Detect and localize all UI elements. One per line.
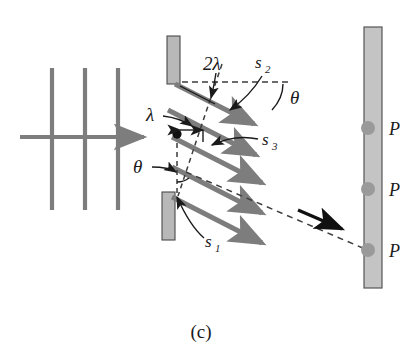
- label-s2: s: [255, 53, 262, 72]
- screen-dot-bottom: [361, 243, 375, 257]
- label-s3: s: [262, 130, 269, 149]
- label-s1-subscript: 1: [215, 242, 220, 254]
- construction-dashed-lines: [177, 64, 372, 252]
- diffraction-grating-figure: 2λ s 2 θ λ s 3 θ s 1 P P P (c): [0, 0, 402, 360]
- two-lambda-segment: [180, 86, 215, 104]
- label-s2-group: s 2: [255, 53, 271, 75]
- label-theta-top: θ: [290, 87, 299, 108]
- label-lambda: λ: [145, 104, 154, 125]
- label-s3-subscript: 3: [271, 140, 278, 152]
- label-screen-point-middle: P: [388, 180, 400, 200]
- screen-dot-top: [361, 121, 375, 135]
- figure-caption: (c): [190, 321, 211, 343]
- beam-to-screen-arrow: [298, 210, 342, 229]
- theta-left-arc: [177, 178, 189, 182]
- label-screen-point-top: P: [388, 119, 400, 139]
- figure-canvas: 2λ s 2 θ λ s 3 θ s 1 P P P (c): [0, 0, 402, 360]
- label-two-lambda: 2λ: [203, 53, 221, 74]
- label-s1-group: s 1: [205, 232, 220, 254]
- screen-dot-middle: [361, 182, 375, 196]
- resultant-beam-arrow: [298, 210, 342, 229]
- label-s1: s: [205, 232, 212, 251]
- diffracted-ray-bundle: [168, 84, 262, 243]
- detection-screen: [361, 27, 382, 288]
- label-theta-left: θ: [133, 156, 142, 177]
- source-point-dot: [172, 129, 181, 138]
- label-s3-group: s 3: [262, 130, 278, 152]
- s2-leader: [230, 76, 262, 110]
- central-ray-to-screen-dashed: [186, 172, 372, 252]
- label-s2-subscript: 2: [265, 63, 271, 75]
- theta-top-arc: [272, 84, 283, 110]
- label-screen-point-bottom: P: [388, 241, 400, 261]
- upper-barrier: [167, 36, 180, 84]
